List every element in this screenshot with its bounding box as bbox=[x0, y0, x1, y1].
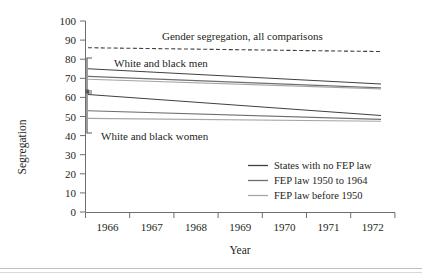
y-tick-label: 10 bbox=[65, 187, 77, 199]
legend-item[interactable]: States with no FEP law bbox=[248, 160, 372, 171]
x-axis-title: Year bbox=[229, 244, 250, 256]
legend-item[interactable]: FEP law before 1950 bbox=[248, 190, 363, 201]
x-tick-label: 1972 bbox=[362, 221, 384, 233]
y-tick-label: 60 bbox=[65, 91, 77, 103]
legend: States with no FEP law FEP law 1950 to 1… bbox=[248, 160, 372, 201]
legend-item[interactable]: FEP law 1950 to 1964 bbox=[248, 175, 368, 186]
chart-svg: Segregation 100 90 80 70 60 50 40 30 20 … bbox=[0, 0, 422, 280]
y-tick-label: 20 bbox=[65, 168, 77, 180]
x-axis bbox=[86, 213, 396, 219]
legend-label: FEP law before 1950 bbox=[274, 190, 363, 201]
x-tick-labels: 1966 1967 1968 1969 1970 1971 1972 bbox=[97, 221, 384, 233]
legend-label: FEP law 1950 to 1964 bbox=[274, 175, 368, 186]
annotation-women: White and black women bbox=[101, 130, 209, 142]
y-tick-labels: 100 90 80 70 60 50 40 30 20 10 0 bbox=[60, 15, 77, 218]
x-tick-label: 1970 bbox=[273, 221, 296, 233]
y-tick-label: 50 bbox=[65, 111, 77, 123]
series-line bbox=[88, 79, 381, 89]
annotation-gender: Gender segregation, all comparisons bbox=[162, 30, 323, 42]
y-tick-label: 100 bbox=[60, 15, 77, 27]
x-tick-label: 1971 bbox=[318, 221, 340, 233]
y-tick-label: 0 bbox=[71, 206, 77, 218]
y-axis-title: Segregation bbox=[16, 119, 29, 174]
annotation-men: White and black men bbox=[114, 57, 208, 69]
footer-divider bbox=[0, 268, 422, 269]
chart-figure: Segregation 100 90 80 70 60 50 40 30 20 … bbox=[0, 0, 422, 280]
series-line bbox=[88, 118, 381, 121]
y-tick-label: 80 bbox=[65, 53, 77, 65]
series-line bbox=[88, 48, 381, 52]
x-tick-label: 1968 bbox=[185, 221, 208, 233]
x-tick-label: 1966 bbox=[97, 221, 120, 233]
y-tick-label: 70 bbox=[65, 72, 77, 84]
x-tick-label: 1967 bbox=[141, 221, 164, 233]
y-tick-label: 40 bbox=[65, 130, 77, 142]
y-axis bbox=[80, 21, 86, 212]
legend-label: States with no FEP law bbox=[274, 160, 372, 171]
y-tick-label: 90 bbox=[65, 34, 77, 46]
footer-divider-secondary bbox=[0, 272, 422, 273]
x-tick-label: 1969 bbox=[229, 221, 252, 233]
y-tick-label: 30 bbox=[65, 149, 77, 161]
